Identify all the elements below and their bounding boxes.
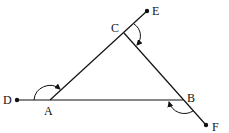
label-F: F: [212, 120, 219, 133]
point-F-dot: [204, 123, 208, 127]
point-E-dot: [145, 9, 149, 13]
label-C: C: [111, 21, 119, 35]
point-D-dot: [15, 98, 19, 102]
triangle-diagram: D A C E B F: [0, 0, 229, 133]
diagram-svg: D A C E B F: [0, 0, 229, 133]
label-A: A: [44, 104, 53, 118]
line-AE: [50, 11, 147, 100]
label-B: B: [187, 91, 195, 105]
angle-arc-A: [34, 85, 60, 100]
label-D: D: [3, 93, 12, 107]
angle-arc-C: [134, 24, 140, 45]
label-E: E: [152, 4, 159, 18]
line-CF: [124, 33, 206, 125]
